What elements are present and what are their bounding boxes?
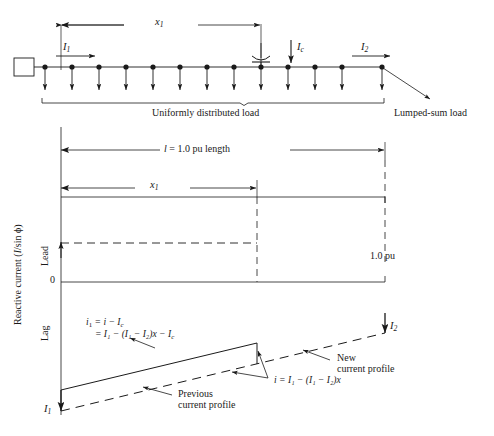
diagram-canvas (0, 0, 494, 436)
figure-root: x1 I1 Ic I2 Uniformly distributed load L… (0, 0, 494, 436)
i1-label-bottom: I1 (44, 403, 51, 416)
x1-label-middle: x1 (150, 179, 159, 192)
x1-label-top: x1 (155, 16, 164, 29)
eq-prev-leaders (232, 351, 268, 378)
substation-box (14, 58, 34, 76)
i1-label-top: I1 (63, 41, 70, 54)
previous-profile-leader (143, 387, 172, 395)
ic-label-top: Ic (297, 41, 304, 54)
lead-label: Lead (39, 246, 50, 266)
previous-profile-line2: current profile (178, 399, 235, 410)
zero-label: 0 (50, 274, 55, 285)
previous-profile-label: Previous current profile (178, 388, 235, 410)
distributed-load-label: Uniformly distributed load (152, 107, 259, 118)
lumped-load-label: Lumped-sum load (394, 107, 467, 118)
x1-dimension-middle (61, 180, 257, 197)
capacitor-symbol (252, 43, 270, 67)
equation-previous-profile: i = I₁ − (I₁ − I₂)x (274, 375, 341, 386)
equation-new-profile-line2: = I₁ − (I₁ − I₂)x − Ic (95, 329, 174, 340)
new-profile-line2: current profile (337, 363, 394, 374)
new-current-profile-solid (61, 343, 257, 390)
previous-profile-line1: Previous (178, 388, 235, 399)
distributed-load-brace (42, 98, 384, 106)
new-profile-label: New current profile (337, 352, 394, 374)
length-label: l = 1.0 pu length (164, 143, 230, 154)
distributed-load-arrows (42, 64, 384, 90)
i2-label-bottom: I2 (390, 320, 397, 333)
i2-label-top: I2 (361, 41, 368, 54)
new-profile-line1: New (337, 352, 394, 363)
pu-label: 1.0 pu (370, 250, 395, 261)
y-axis-label: Reactive current (I/sin ϕ) (12, 224, 23, 325)
lag-label: Lag (39, 325, 50, 341)
equation-new-profile-line1: i1 = i − Ic (86, 317, 124, 328)
lumped-load-leader (383, 68, 430, 99)
new-profile-leader (303, 350, 330, 360)
